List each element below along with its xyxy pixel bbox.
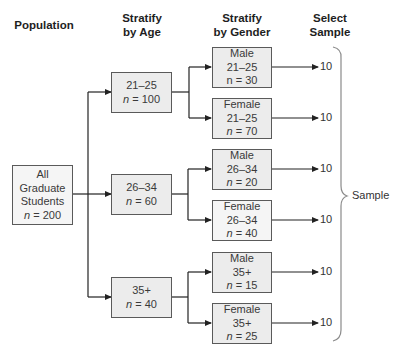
sample-label: Sample	[352, 189, 389, 201]
sample-count-male-26-34: 10	[320, 162, 332, 174]
gender-box-male-35-plus: Male 35+ n = 15	[212, 252, 272, 293]
gender-box-female-26-34: Female 26–34 n = 40	[212, 200, 272, 241]
sample-count-female-35-plus: 10	[320, 316, 332, 328]
header-select-sample: Select Sample	[295, 11, 365, 39]
gender-box-male-26-34: Male 26–34 n = 20	[212, 149, 272, 190]
header-population: Population	[8, 18, 80, 32]
gender-box-male-21-25: Male 21–25 n = 30	[212, 47, 272, 88]
sample-count-female-26-34: 10	[320, 213, 332, 225]
sample-count-male-35-plus: 10	[320, 265, 332, 277]
sample-count-female-21-25: 10	[320, 111, 332, 123]
age-box-26-34: 26–34 n = 60	[111, 174, 172, 215]
gender-box-female-21-25: Female 21–25 n = 70	[212, 98, 272, 139]
sample-count-male-21-25: 10	[320, 60, 332, 72]
age-box-35-plus: 35+ n = 40	[111, 277, 172, 318]
age-box-21-25: 21–25 n = 100	[111, 72, 172, 113]
population-box: All Graduate Students n = 200	[12, 165, 73, 225]
header-stratify-gender: Stratify by Gender	[198, 11, 286, 39]
gender-box-female-35-plus: Female 35+ n = 25	[212, 303, 272, 344]
header-stratify-age: Stratify by Age	[102, 11, 182, 39]
sample-brace	[333, 47, 347, 341]
population-n: n = 200	[24, 209, 61, 223]
